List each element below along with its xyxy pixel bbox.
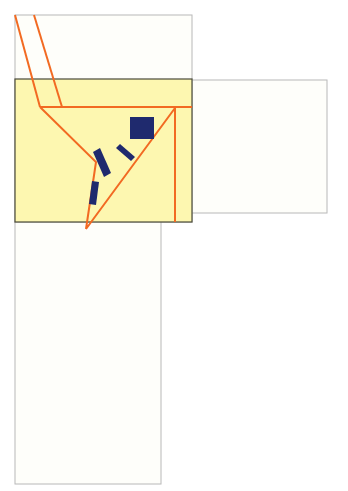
square-block bbox=[130, 117, 154, 139]
right-panel bbox=[192, 80, 327, 213]
highlight-region bbox=[15, 79, 192, 222]
diagram-canvas bbox=[0, 0, 348, 491]
bottom-panel bbox=[15, 222, 161, 484]
